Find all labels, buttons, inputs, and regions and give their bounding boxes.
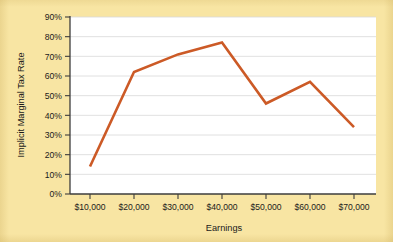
y-tick-label: 10% <box>45 170 63 180</box>
y-tick-label: 20% <box>45 150 63 160</box>
implicit-marginal-tax-rate-line-chart: 90% 80% 70% 60% 50% 40% 30% 20% 10% 0% $… <box>0 0 393 242</box>
y-tick-label: 70% <box>45 52 63 62</box>
x-axis-title: Earnings <box>206 223 243 233</box>
x-tick-label: $50,000 <box>250 202 281 212</box>
y-tick-label: 60% <box>45 71 63 81</box>
x-tick-label: $40,000 <box>206 202 237 212</box>
y-axis-title: Implicit Marginal Tax Rate <box>16 52 26 157</box>
chart-figure: 90% 80% 70% 60% 50% 40% 30% 20% 10% 0% $… <box>0 0 393 242</box>
x-tick-label: $30,000 <box>162 202 193 212</box>
x-tick-label: $60,000 <box>294 202 325 212</box>
x-tick-label: $10,000 <box>74 202 105 212</box>
y-axis-ticks <box>65 17 70 194</box>
x-axis-ticks <box>90 194 354 199</box>
y-tick-label: 0% <box>50 189 63 199</box>
y-tick-label: 30% <box>45 130 63 140</box>
x-tick-label: $20,000 <box>118 202 149 212</box>
y-tick-label: 40% <box>45 111 63 121</box>
y-axis-tick-labels: 90% 80% 70% 60% 50% 40% 30% 20% 10% 0% <box>45 12 63 199</box>
x-axis-tick-labels: $10,000 $20,000 $30,000 $40,000 $50,000 … <box>74 202 369 212</box>
x-tick-label: $70,000 <box>338 202 369 212</box>
y-tick-label: 90% <box>45 12 63 22</box>
y-tick-label: 50% <box>45 91 63 101</box>
y-tick-label: 80% <box>45 32 63 42</box>
